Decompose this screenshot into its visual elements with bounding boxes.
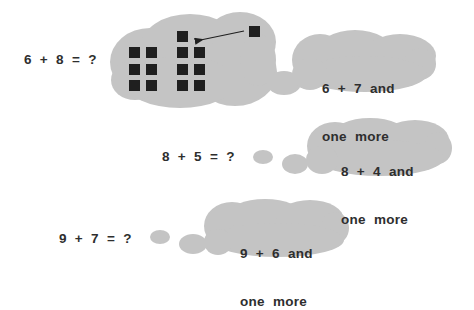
square <box>129 47 140 58</box>
thought-bubble-small-3a <box>150 230 170 244</box>
moved-square <box>249 26 260 37</box>
thought-text-3: 9 + 6 and one more <box>240 214 313 310</box>
square <box>129 80 140 91</box>
equation-2: 8 + 5 = ? <box>162 149 235 164</box>
thought-text-2: 8 + 4 and one more <box>341 132 414 244</box>
square <box>194 47 205 58</box>
thought-bubble-small-2b <box>282 154 308 174</box>
equation-1: 6 + 8 = ? <box>24 52 97 67</box>
square <box>146 64 157 75</box>
thought-line: one more <box>341 212 414 228</box>
square <box>194 64 205 75</box>
square <box>129 64 140 75</box>
thought-line: 6 + 7 and <box>322 81 395 97</box>
thought-line: 8 + 4 and <box>341 164 414 180</box>
equation-3: 9 + 7 = ? <box>59 231 132 246</box>
square <box>177 64 188 75</box>
thought-line: one more <box>240 294 313 310</box>
square <box>146 80 157 91</box>
square <box>194 80 205 91</box>
square <box>177 80 188 91</box>
square <box>177 47 188 58</box>
thought-bubble-small-2a <box>253 150 273 164</box>
thought-bubble-small-3b <box>179 234 207 254</box>
square <box>146 47 157 58</box>
thought-line: 9 + 6 and <box>240 246 313 262</box>
square <box>177 31 188 42</box>
